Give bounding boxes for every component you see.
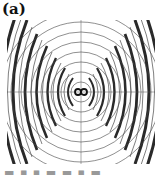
panel-label: (a) (2, 0, 26, 18)
caption-text: ▬ ▪ ▪ ▬ ▬ ▪ ▬ (4, 166, 102, 175)
field-contour-plot (7, 20, 155, 164)
